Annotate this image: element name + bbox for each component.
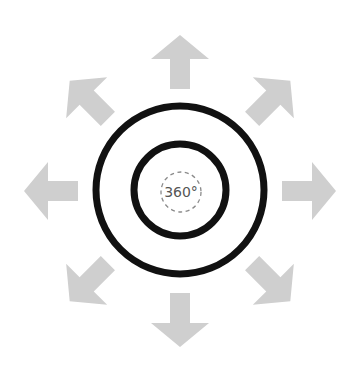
- arrow-up-icon: [151, 35, 209, 89]
- center-label: 360°: [164, 184, 198, 200]
- arrow-right-icon: [282, 162, 336, 220]
- arrow-left-icon: [24, 162, 78, 220]
- arrow-down-icon: [151, 293, 209, 347]
- arrow-up-left-icon: [49, 60, 128, 139]
- arrow-down-left-icon: [49, 243, 128, 322]
- arrow-down-right-icon: [232, 243, 311, 322]
- rotation-360-diagram: 360°: [0, 0, 356, 375]
- arrow-up-right-icon: [232, 60, 311, 139]
